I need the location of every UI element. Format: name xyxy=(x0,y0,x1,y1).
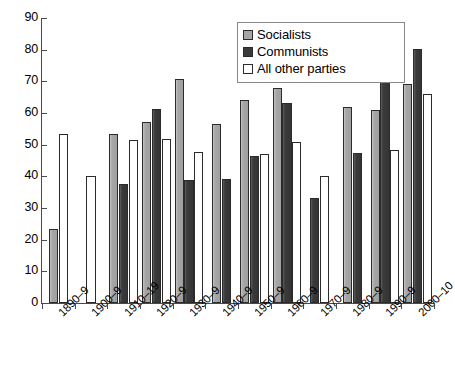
x-axis-tick xyxy=(238,304,239,309)
legend-item-label: Socialists xyxy=(257,28,311,42)
bar-allother xyxy=(129,140,138,303)
y-axis-tick-label: 10 xyxy=(4,264,38,276)
bar-allother xyxy=(423,94,432,303)
bar-socialists xyxy=(142,122,151,303)
legend-item: Communists xyxy=(243,44,399,60)
x-axis-tick xyxy=(42,304,43,309)
y-axis-tick-label: 0 xyxy=(4,296,38,308)
x-axis-tick xyxy=(75,304,76,309)
bar-allother xyxy=(59,134,68,303)
bar-communists xyxy=(250,156,259,303)
bar-communists xyxy=(282,103,291,303)
y-axis-tick-label: 30 xyxy=(4,201,38,213)
y-axis-tick xyxy=(42,113,47,114)
y-axis-tick xyxy=(42,50,47,51)
chart-legend: SocialistsCommunistsAll other parties xyxy=(237,22,405,83)
bar-communists xyxy=(184,180,193,304)
bar-socialists xyxy=(49,229,58,303)
bar-communists xyxy=(353,153,362,303)
y-axis-tick xyxy=(42,176,47,177)
legend-item: All other parties xyxy=(243,61,399,77)
bar-allother xyxy=(390,150,399,303)
bar-socialists xyxy=(109,134,118,303)
y-axis-tick-label: 70 xyxy=(4,74,38,86)
legend-item-label: All other parties xyxy=(257,62,346,76)
legend-swatch-icon xyxy=(243,47,253,57)
bar-communists xyxy=(413,49,422,303)
y-axis-tick-label: 20 xyxy=(4,233,38,245)
x-axis-tick xyxy=(401,304,402,309)
bar-allother xyxy=(194,152,203,303)
bar-allother xyxy=(86,176,95,303)
bar-communists xyxy=(222,179,231,303)
y-axis-tick-label: 60 xyxy=(4,106,38,118)
bar-allother xyxy=(162,139,171,303)
y-axis-tick-label: 50 xyxy=(4,138,38,150)
legend-swatch-icon xyxy=(243,30,253,40)
y-axis-labels: 9080706050403020100 xyxy=(0,0,38,371)
x-axis-tick xyxy=(107,304,108,309)
y-axis-tick-label: 90 xyxy=(4,11,38,23)
bar-socialists xyxy=(240,100,249,303)
bar-allother xyxy=(320,176,329,303)
y-axis-tick-label: 80 xyxy=(4,43,38,55)
bar-communists xyxy=(152,109,161,303)
x-axis-tick xyxy=(271,304,272,309)
y-axis-tick xyxy=(42,145,47,146)
x-axis-tick xyxy=(369,304,370,309)
x-axis-tick xyxy=(140,304,141,309)
x-axis-tick xyxy=(173,304,174,309)
y-axis-tick xyxy=(42,271,47,272)
y-axis-tick xyxy=(42,208,47,209)
bar-allother xyxy=(292,142,301,303)
y-axis-tick xyxy=(42,240,47,241)
bar-allother xyxy=(260,154,269,303)
y-axis-tick-label: 40 xyxy=(4,169,38,181)
bar-socialists xyxy=(212,124,221,303)
bar-communists xyxy=(119,184,128,303)
bar-socialists xyxy=(175,79,184,303)
bar-socialists xyxy=(371,110,380,303)
bar-socialists xyxy=(343,107,352,303)
legend-item: Socialists xyxy=(243,27,399,43)
x-axis-tick xyxy=(205,304,206,309)
bar-socialists xyxy=(273,88,282,303)
y-axis-tick xyxy=(42,81,47,82)
bar-socialists xyxy=(403,84,412,303)
x-axis-tick xyxy=(336,304,337,309)
legend-item-label: Communists xyxy=(257,45,328,59)
x-axis-tick xyxy=(434,304,435,309)
legend-swatch-icon xyxy=(243,64,253,74)
bar-communists xyxy=(380,60,389,303)
y-axis-tick xyxy=(42,18,47,19)
x-axis-tick xyxy=(303,304,304,309)
